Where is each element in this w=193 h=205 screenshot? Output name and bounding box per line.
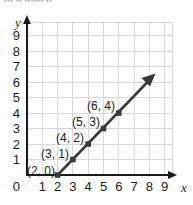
y-tick-label: 4 xyxy=(13,106,20,121)
x-tick-label: 1 xyxy=(39,179,46,194)
y-tick-label: 2 xyxy=(13,137,20,152)
data-point-marker xyxy=(55,172,61,178)
y-tick-label: 7 xyxy=(13,59,20,74)
x-tick-label: 9 xyxy=(161,179,168,194)
y-axis-arrow-icon xyxy=(23,15,31,24)
y-tick-label: 0 xyxy=(13,179,20,194)
data-point-labels: (2, 0) (3, 1) (4, 2) (5, 3) (6, 4) xyxy=(27,99,115,178)
x-tick-label: 7 xyxy=(130,179,137,194)
data-point-marker xyxy=(70,157,76,163)
x-axis-tick-labels: 1 2 3 4 5 6 7 8 9 xyxy=(39,179,169,194)
y-tick-label: 1 xyxy=(13,152,20,167)
chart-canvas: ▪▪▪ ▪▪ ▪▪▪▪▪▪ ▪▪ xyxy=(0,0,193,205)
x-tick-label: 5 xyxy=(100,179,107,194)
data-point-label: (2, 0) xyxy=(27,164,55,178)
data-point-label: (6, 4) xyxy=(87,99,115,113)
data-point-marker xyxy=(116,110,122,116)
y-tick-label: 3 xyxy=(13,121,20,136)
y-tick-label: 9 xyxy=(13,28,20,43)
x-tick-label: 2 xyxy=(54,179,61,194)
x-tick-label: 4 xyxy=(85,179,92,194)
x-axis-label: x xyxy=(180,180,187,195)
data-point-label: (3, 1) xyxy=(41,147,69,161)
data-point-label: (4, 2) xyxy=(56,131,84,145)
data-point-marker xyxy=(85,141,91,147)
data-point-marker xyxy=(101,126,107,132)
x-tick-label: 3 xyxy=(69,179,76,194)
y-tick-label: 6 xyxy=(13,75,20,90)
y-tick-label: 5 xyxy=(13,90,20,105)
y-axis-label: y xyxy=(13,15,21,30)
y-axis-tick-labels: 9 8 7 6 5 4 3 2 1 0 xyxy=(13,28,20,194)
coordinate-grid-plot: 9 8 7 6 5 4 3 2 1 0 1 2 3 4 5 6 7 8 9 y … xyxy=(0,0,193,205)
x-tick-label: 8 xyxy=(146,179,153,194)
data-point-label: (5, 3) xyxy=(72,115,100,129)
x-tick-label: 6 xyxy=(115,179,122,194)
y-tick-label: 8 xyxy=(13,44,20,59)
